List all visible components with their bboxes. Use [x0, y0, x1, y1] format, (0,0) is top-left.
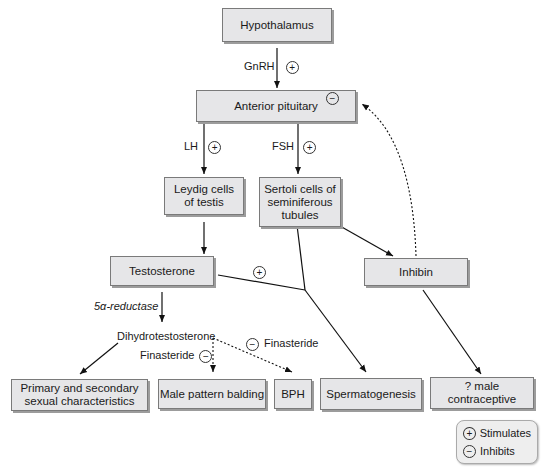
lh-label: LH + — [184, 140, 221, 154]
bph-box: BPH — [274, 379, 312, 409]
inhibin-label: Inhibin — [399, 266, 433, 279]
legend-stimulates: + Stimulates — [463, 424, 531, 442]
sertoli-cells-box: Sertoli cells of seminiferous tubules — [259, 177, 341, 227]
testosterone-label: Testosterone — [129, 265, 195, 278]
legend-inhibits: − Inhibits — [463, 442, 531, 460]
leydig-cells-label: Leydig cells of testis — [169, 183, 239, 209]
male-contraceptive-label: ? male contraceptive — [431, 380, 533, 406]
finasteride-left-label: Finasteride − — [140, 349, 212, 363]
primary-secondary-label: Primary and secondary sexual characteris… — [17, 382, 142, 408]
spermatogenesis-label: Spermatogenesis — [326, 388, 416, 401]
spermatogenesis-box: Spermatogenesis — [320, 378, 422, 410]
gnrh-label: GnRH + — [244, 60, 299, 74]
male-pattern-balding-box: Male pattern balding — [158, 379, 266, 409]
primary-secondary-box: Primary and secondary sexual characteris… — [11, 379, 148, 411]
plus-sign-icon: + — [303, 141, 316, 154]
male-contraceptive-box: ? male contraceptive — [430, 377, 534, 409]
dihydrotestosterone-label: Dihydrotestosterone — [117, 330, 215, 342]
finasteride-right-label: − Finasteride — [246, 337, 318, 351]
plus-sign-icon: + — [463, 427, 476, 440]
bph-label: BPH — [281, 388, 305, 401]
hypothalamus-box: Hypothalamus — [222, 8, 332, 42]
five-alpha-reductase-label: 5α-reductase — [94, 300, 158, 312]
male-pattern-balding-label: Male pattern balding — [160, 388, 264, 401]
minus-sign-icon: − — [199, 350, 212, 363]
plus-sign-icon: + — [286, 61, 299, 74]
hypothalamus-label: Hypothalamus — [240, 19, 314, 32]
legend: + Stimulates − Inhibits — [456, 420, 538, 464]
fsh-label: FSH + — [272, 140, 316, 154]
minus-sign-icon: − — [463, 445, 476, 458]
minus-sign-icon: − — [246, 338, 259, 351]
inhibin-feedback-minus-icon: − — [326, 92, 339, 105]
anterior-pituitary-label: Anterior pituitary — [234, 100, 318, 113]
testosterone-spermatogenesis-plus-icon: + — [253, 266, 266, 279]
testosterone-box: Testosterone — [110, 256, 214, 286]
plus-sign-icon: + — [208, 141, 221, 154]
sertoli-cells-label: Sertoli cells of seminiferous tubules — [261, 183, 339, 222]
leydig-cells-box: Leydig cells of testis — [164, 177, 244, 215]
inhibin-box: Inhibin — [364, 258, 468, 286]
